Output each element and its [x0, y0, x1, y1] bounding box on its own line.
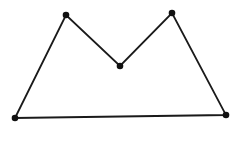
concave-pentagon-diagram: [0, 0, 244, 167]
vertex-top-right: [169, 10, 176, 17]
vertex-top-left: [63, 12, 70, 19]
vertex-middle: [117, 63, 124, 70]
vertex-points: [12, 10, 230, 122]
vertex-bottom-left: [12, 115, 19, 122]
vertex-bottom-right: [223, 112, 230, 119]
